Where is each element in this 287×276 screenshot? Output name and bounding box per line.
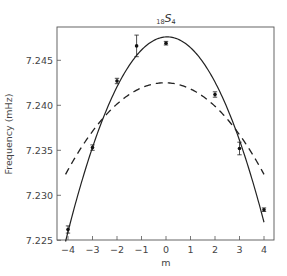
y-axis-label: Frequency (mHz)	[3, 94, 14, 175]
data-point	[115, 79, 119, 83]
y-tick-label: 7.225	[26, 235, 53, 246]
data-point	[213, 93, 217, 97]
x-tick-label: −2	[110, 244, 124, 255]
x-tick-label: 1	[187, 244, 193, 255]
y-axis: 7.2257.2307.2357.2407.245	[26, 55, 61, 246]
title-pre-subscript: 18	[156, 18, 164, 26]
dashed-model-curve	[66, 83, 264, 175]
x-tick-label: 3	[236, 244, 242, 255]
x-tick-label: 0	[163, 244, 169, 255]
y-tick-label: 7.235	[26, 145, 53, 156]
chart-title: 18S4	[156, 12, 175, 26]
title-post-subscript: 4	[172, 18, 176, 26]
x-tick-label: 4	[261, 244, 267, 255]
data-point	[164, 41, 168, 45]
data-point	[262, 208, 266, 212]
plot-area	[57, 27, 274, 240]
x-tick-label: 2	[212, 244, 218, 255]
x-tick-label: −1	[134, 244, 148, 255]
chart: 18S4 −4−3−2−101234 7.2257.2307.2357.2407…	[0, 0, 287, 276]
data-point	[91, 146, 95, 150]
x-tick-label: −3	[85, 244, 99, 255]
x-axis-label: m	[161, 257, 170, 268]
data-point	[66, 228, 70, 232]
y-tick-label: 7.245	[26, 55, 53, 66]
y-tick-label: 7.230	[26, 190, 53, 201]
x-axis: −4−3−2−101234	[61, 236, 267, 255]
x-tick-label: −4	[61, 244, 75, 255]
data-points	[66, 35, 266, 233]
solid-fit-curve	[66, 37, 264, 242]
y-tick-label: 7.240	[26, 100, 53, 111]
data-point	[238, 147, 242, 151]
title-main: S	[165, 12, 172, 25]
data-point	[135, 44, 139, 48]
